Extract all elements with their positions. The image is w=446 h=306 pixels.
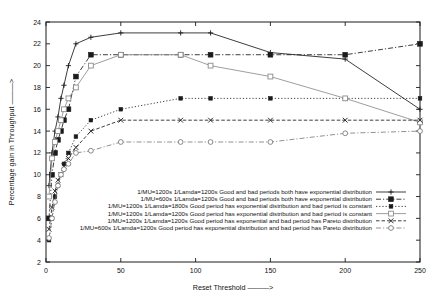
marker-circle-open <box>59 172 64 177</box>
marker-square-open <box>178 52 183 57</box>
y-tick-label: 22 <box>33 40 41 47</box>
legend-label-2: 1/MU=1200s 1/Lamda=1800s Good period has… <box>108 202 373 209</box>
y-tick-label: 4 <box>37 237 41 244</box>
marker-plus <box>388 189 393 194</box>
marker-x <box>53 189 58 194</box>
marker-square-open <box>268 74 273 79</box>
x-tick-label: 100 <box>190 267 202 274</box>
legend-label-1: 1/MU=600s 1/Lamda=1200s Good and bad per… <box>141 195 372 202</box>
marker-circle-open <box>53 200 58 205</box>
y-tick-label: 6 <box>37 215 41 222</box>
marker-square-open <box>66 96 71 101</box>
marker-circle-open <box>418 129 423 134</box>
marker-plus <box>118 30 123 35</box>
y-tick-label: 16 <box>33 106 41 113</box>
x-tick-label: 150 <box>265 267 277 274</box>
marker-square-small <box>269 97 273 101</box>
y-tick-label: 8 <box>37 193 41 200</box>
y-tick-label: 14 <box>33 128 41 135</box>
marker-plus <box>66 63 71 68</box>
marker-circle-open <box>50 216 55 221</box>
marker-square-open <box>53 140 58 145</box>
x-tick-label: 0 <box>44 267 48 274</box>
marker-circle-open <box>47 236 52 241</box>
marker-plus <box>178 30 183 35</box>
marker-square-open <box>74 85 79 90</box>
marker-circle-open <box>88 148 93 153</box>
marker-x <box>74 145 79 150</box>
marker-square-filled <box>74 74 79 79</box>
x-tick-label: 200 <box>339 267 351 274</box>
marker-square-small <box>418 97 422 101</box>
marker-circle-open <box>74 151 79 156</box>
x-axis-title: Reset Threshold ———> <box>193 283 273 292</box>
y-axis-title: Percentage gain in Throughput ———> <box>7 79 16 205</box>
marker-square-small <box>179 97 183 101</box>
series-3 <box>47 52 423 199</box>
marker-circle-open <box>208 140 213 145</box>
marker-square-filled <box>389 197 394 202</box>
marker-square-filled <box>418 41 423 46</box>
marker-x <box>66 156 71 161</box>
marker-square-filled <box>268 52 273 57</box>
marker-square-filled <box>88 52 93 57</box>
marker-square-small <box>209 97 213 101</box>
series-line-0 <box>49 33 420 186</box>
marker-circle-open <box>178 140 183 145</box>
marker-circle-open <box>389 226 394 231</box>
marker-square-small <box>89 118 93 122</box>
marker-square-open <box>56 129 61 134</box>
marker-square-open <box>343 96 348 101</box>
legend-label-3: 1/MU=1200s 1/Lamda=1200s Good period has… <box>108 210 373 217</box>
chart-figure: 05010015020025024681012141618202224Reset… <box>0 0 446 306</box>
marker-square-open <box>59 118 64 123</box>
legend-label-5: 1/MU=600s 1/Lamda=1200s Good period has … <box>80 224 372 231</box>
marker-circle-open <box>343 131 348 136</box>
marker-plus <box>58 96 63 101</box>
marker-square-open <box>47 194 52 199</box>
marker-circle-open <box>62 167 67 172</box>
marker-square-filled <box>343 52 348 57</box>
marker-square-open <box>50 156 55 161</box>
y-tick-label: 20 <box>33 62 41 69</box>
y-tick-label: 10 <box>33 171 41 178</box>
marker-square-open <box>208 63 213 68</box>
marker-plus <box>73 41 78 46</box>
marker-plus <box>208 30 213 35</box>
marker-square-filled <box>208 52 213 57</box>
marker-plus <box>417 107 422 112</box>
series-0 <box>46 30 422 188</box>
marker-square-open <box>62 107 67 112</box>
legend: 1/MU=1200s 1/Lamda=1200s Good and bad pe… <box>80 188 406 231</box>
marker-circle-open <box>118 140 123 145</box>
marker-square-small <box>74 135 78 139</box>
marker-plus <box>88 35 93 40</box>
y-tick-label: 2 <box>37 259 41 266</box>
marker-circle-open <box>268 140 273 145</box>
marker-x <box>88 129 93 134</box>
marker-square-open <box>88 63 93 68</box>
marker-square-open <box>118 52 123 57</box>
marker-square-open <box>389 211 394 216</box>
y-tick-label: 24 <box>33 19 41 26</box>
marker-plus <box>61 83 66 88</box>
y-tick-label: 18 <box>33 84 41 91</box>
x-tick-label: 50 <box>117 267 125 274</box>
legend-label-0: 1/MU=1200s 1/Lamda=1200s Good and bad pe… <box>137 188 372 195</box>
legend-label-4: 1/MU=1200s 1/Lamda=1200s Good period has… <box>107 217 372 224</box>
y-tick-label: 12 <box>33 149 41 156</box>
x-tick-label: 250 <box>414 267 426 274</box>
marker-square-small <box>119 107 123 111</box>
marker-square-small <box>67 151 71 155</box>
throughput-gain-line-chart: 05010015020025024681012141618202224Reset… <box>0 0 446 306</box>
marker-circle-open <box>56 183 61 188</box>
marker-circle-open <box>66 161 71 166</box>
marker-square-small <box>389 205 393 209</box>
